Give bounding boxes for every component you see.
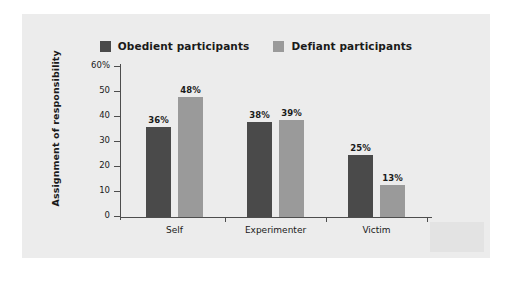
x-tick: [225, 217, 226, 222]
y-tick-label: 30: [99, 135, 110, 145]
y-tick: 20: [114, 166, 120, 167]
bar: 39%: [279, 120, 304, 218]
y-tick: 30: [114, 141, 120, 142]
plot-area: 0102030405060% 36%48%Self38%39%Experimen…: [120, 67, 432, 217]
legend-label-obedient: Obedient participants: [118, 40, 250, 52]
legend-entry-defiant: Defiant participants: [273, 40, 412, 52]
y-tick-label: 60%: [91, 60, 110, 70]
y-axis-line: [120, 64, 121, 220]
bar-value-label: 39%: [281, 108, 301, 118]
bar: 13%: [380, 185, 405, 218]
bar-value-label: 25%: [350, 143, 370, 153]
figure-panel: Obedient participants Defiant participan…: [22, 14, 490, 258]
page-corner-block: [430, 222, 484, 252]
bar-group: 25%13%Victim: [340, 67, 413, 217]
y-tick: 10: [114, 191, 120, 192]
y-tick-label: 0: [105, 210, 110, 220]
bar-value-label: 36%: [148, 115, 168, 125]
x-axis-category-label: Experimenter: [239, 225, 312, 235]
y-axis-title: Assignment of responsibility: [50, 57, 61, 207]
bar-value-label: 48%: [180, 85, 200, 95]
y-tick: 0: [114, 216, 120, 217]
x-axis-category-label: Victim: [340, 225, 413, 235]
bar-group: 36%48%Self: [138, 67, 211, 217]
bar: 38%: [247, 122, 272, 217]
y-tick-label: 20: [99, 160, 110, 170]
chart-legend: Obedient participants Defiant participan…: [22, 40, 490, 52]
y-tick: 50: [114, 91, 120, 92]
x-tick: [326, 217, 327, 222]
bar: 48%: [178, 97, 203, 217]
bar-group: 38%39%Experimenter: [239, 67, 312, 217]
y-tick-label: 50: [99, 85, 110, 95]
legend-entry-obedient: Obedient participants: [100, 40, 250, 52]
bar-value-label: 38%: [249, 110, 269, 120]
y-tick: 60%: [114, 66, 120, 67]
legend-swatch-obedient: [100, 41, 111, 52]
y-tick: 40: [114, 116, 120, 117]
x-axis-category-label: Self: [138, 225, 211, 235]
x-tick: [427, 217, 428, 222]
x-axis-line: [120, 217, 432, 218]
bar: 36%: [146, 127, 171, 217]
y-tick-label: 10: [99, 185, 110, 195]
y-tick-label: 40: [99, 110, 110, 120]
legend-label-defiant: Defiant participants: [291, 40, 412, 52]
bar-value-label: 13%: [382, 173, 402, 183]
bar: 25%: [348, 155, 373, 218]
legend-swatch-defiant: [273, 41, 284, 52]
